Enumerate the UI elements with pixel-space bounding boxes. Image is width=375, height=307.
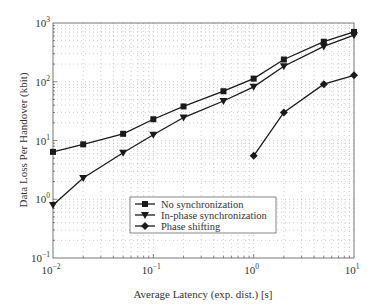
diamond-marker	[250, 152, 258, 160]
y-tick-label: 102	[35, 74, 50, 88]
series-line	[53, 35, 354, 205]
series-line	[254, 75, 354, 156]
series-line	[53, 32, 354, 152]
square-marker	[80, 141, 86, 147]
legend-label: No synchronization	[161, 199, 244, 210]
legend-label: Phase shifting	[161, 221, 221, 232]
y-tick-label: 103	[35, 15, 50, 29]
x-tick-label: 10−2	[42, 262, 61, 276]
triangle-down-marker	[280, 63, 288, 70]
square-marker	[150, 116, 156, 122]
square-marker	[50, 149, 56, 155]
x-axis-label: Average Latency (exp. dist.) [s]	[133, 288, 272, 301]
y-tick-label: 10−1	[31, 250, 50, 264]
triangle-down-marker	[320, 43, 328, 50]
x-tick-label: 101	[345, 262, 360, 276]
x-tick-label: 10−1	[142, 262, 161, 276]
diamond-marker	[350, 71, 358, 79]
square-marker	[251, 76, 257, 82]
series-in-phase-synchronization	[49, 32, 358, 209]
square-marker	[120, 131, 126, 137]
legend-label: In-phase synchronization	[161, 210, 268, 221]
data-series	[49, 29, 358, 209]
y-axis-label: Data Loss Per Handover (kbit)	[17, 72, 30, 207]
diamond-marker	[320, 80, 328, 88]
log-log-line-chart: 10−210−110010110−1100101102103 No synchr…	[0, 0, 375, 307]
triangle-down-marker	[49, 202, 57, 209]
y-tick-label: 100	[35, 191, 50, 205]
y-tick-label: 101	[35, 133, 50, 147]
diamond-marker	[280, 108, 288, 116]
x-tick-label: 100	[244, 262, 259, 276]
triangle-down-marker	[149, 132, 157, 139]
triangle-down-marker	[250, 84, 258, 91]
square-marker	[181, 103, 187, 109]
square-marker	[220, 88, 226, 94]
triangle-down-marker	[180, 115, 188, 122]
triangle-down-marker	[119, 150, 127, 157]
series-no-synchronization	[50, 29, 357, 155]
square-marker	[142, 201, 148, 207]
legend: No synchronizationIn-phase synchronizati…	[130, 197, 276, 233]
square-marker	[281, 57, 287, 63]
